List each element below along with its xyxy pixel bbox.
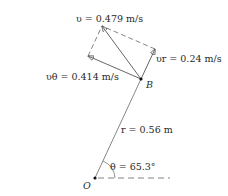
origin-label: O — [83, 181, 91, 191]
point-b-dot — [139, 77, 142, 80]
r-label: r = 0.56 m — [121, 125, 173, 135]
vr-vector-arrow — [141, 49, 155, 79]
origin-dot — [93, 176, 96, 179]
point-b-label: B — [146, 80, 153, 90]
theta-label: θ = 65.3° — [110, 162, 156, 172]
v-label: υ = 0.479 m/s — [76, 14, 143, 24]
polar-velocity-diagram: υ = 0.479 m/s υr = 0.24 m/s υθ = 0.414 m… — [0, 0, 228, 196]
vtheta-label: υθ = 0.414 m/s — [46, 72, 119, 82]
vr-parallel-dashed — [88, 26, 102, 56]
vr-label: υr = 0.24 m/s — [156, 54, 222, 64]
